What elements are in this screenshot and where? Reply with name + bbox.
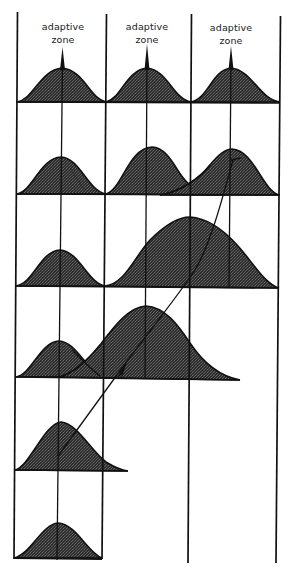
distribution-r1-c2 [106,68,191,102]
baseline-row-6 [14,558,102,559]
column-border-4 [276,16,281,563]
row-1 [17,44,280,103]
row-6 [14,523,102,559]
column-label-1-line1: adaptive [33,20,93,33]
diagram-canvas [0,0,295,575]
distribution-r3-wide [105,217,279,288]
column-label-3: adaptive zone [201,21,261,47]
distribution-r4-wide [60,306,240,380]
distribution-r5-c1-skewed [15,422,128,471]
column-label-2: adaptive zone [117,20,177,46]
column-border-3 [188,14,192,563]
zone-center-line-1 [57,60,63,560]
evolution-diagram: adaptive zone adaptive zone adaptive zon… [0,0,295,575]
row-3 [16,217,279,288]
column-label-2-line1: adaptive [117,20,177,33]
column-label-1: adaptive zone [33,20,93,46]
row-2 [17,147,280,195]
row-5 [15,422,128,471]
baseline-row-5 [15,470,128,471]
row-4 [16,306,240,380]
column-label-3-line2: zone [201,34,261,47]
distribution-r6-c1 [14,523,102,558]
baseline-row-2 [17,194,280,195]
column-label-3-line1: adaptive [201,21,261,34]
baseline-row-1 [17,102,280,103]
column-label-1-line2: zone [33,33,93,46]
column-label-2-line2: zone [117,33,177,46]
distribution-r1-c3 [191,68,280,102]
